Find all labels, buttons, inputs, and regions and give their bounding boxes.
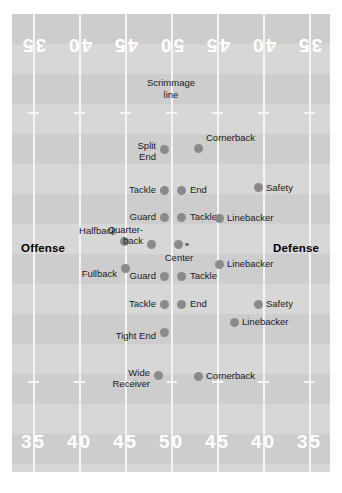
player-dot-defense-linebacker-lower[interactable] bbox=[230, 318, 239, 327]
yard-number-top-1: 40 bbox=[67, 36, 92, 55]
player-label-defense-end-lower: End bbox=[190, 298, 260, 309]
yard-number-bottom-5: 40 bbox=[251, 432, 276, 451]
player-label-line1: Guard bbox=[80, 211, 156, 222]
player-dot-defense-cornerback-top[interactable] bbox=[194, 144, 203, 153]
player-dot-defense-safety-upper[interactable] bbox=[254, 183, 263, 192]
player-label-offense-center: Center bbox=[140, 252, 218, 263]
player-label-line1: Cornerback bbox=[206, 132, 306, 143]
yard-number-top-6: 35 bbox=[297, 36, 322, 55]
player-label-line1: End bbox=[190, 298, 260, 309]
player-dot-defense-tackle-lower[interactable] bbox=[177, 272, 186, 281]
player-label-defense-tackle-lower: Tackle bbox=[190, 270, 260, 281]
player-label-offense-quarterback: Quarter- back bbox=[74, 224, 143, 246]
yard-number-bottom-3: 50 bbox=[159, 432, 184, 451]
player-label-line1: Tackle bbox=[80, 298, 156, 309]
offense-label: Offense bbox=[21, 242, 65, 254]
yard-number-bottom-1: 40 bbox=[67, 432, 92, 451]
player-dot-offense-wide-receiver[interactable] bbox=[154, 371, 163, 380]
player-label-defense-safety-lower: Safety bbox=[266, 298, 326, 309]
player-label-line1: Safety bbox=[266, 182, 326, 193]
player-label-offense-guard-upper: Guard bbox=[80, 211, 156, 222]
player-label-line1: Quarter- bbox=[74, 224, 143, 235]
hash-mark bbox=[120, 112, 131, 114]
player-label-line1: Linebacker bbox=[242, 316, 330, 327]
yard-number-top-3: 50 bbox=[159, 36, 184, 55]
yard-number-bottom-2: 45 bbox=[113, 432, 138, 451]
player-label-offense-split-end: Split End bbox=[80, 140, 156, 162]
hash-mark bbox=[258, 112, 269, 114]
player-label-offense-wide-receiver: Wide Receiver bbox=[70, 367, 150, 389]
yard-number-bottom-4: 45 bbox=[205, 432, 230, 451]
player-label-line1: End bbox=[190, 184, 260, 195]
player-dot-defense-linebacker-middle[interactable] bbox=[215, 260, 224, 269]
player-label-defense-linebacker-middle: Linebacker bbox=[227, 258, 317, 269]
hash-mark bbox=[212, 381, 223, 383]
player-label-line1: Linebacker bbox=[227, 212, 317, 223]
player-label-line2: back bbox=[74, 235, 143, 246]
player-label-offense-tight-end: Tight End bbox=[72, 330, 156, 341]
player-dot-defense-linebacker-upper[interactable] bbox=[215, 214, 224, 223]
player-label-line1: Tackle bbox=[80, 184, 156, 195]
player-label-defense-end-upper: End bbox=[190, 184, 260, 195]
yard-number-top-4: 45 bbox=[205, 36, 230, 55]
football-formation-diagram: 35 40 45 50 45 40 35 35 40 45 50 45 40 3… bbox=[0, 0, 342, 493]
player-label-line1: Tackle bbox=[190, 270, 260, 281]
football-field: 35 40 45 50 45 40 35 35 40 45 50 45 40 3… bbox=[12, 14, 330, 472]
player-label-line1: Wide bbox=[70, 367, 150, 378]
player-label-line1: Safety bbox=[266, 298, 326, 309]
player-label-line2: End bbox=[80, 151, 156, 162]
player-label-offense-tackle-upper: Tackle bbox=[80, 184, 156, 195]
hash-mark bbox=[304, 381, 315, 383]
yard-number-bottom-0: 35 bbox=[21, 432, 46, 451]
yard-number-bottom-6: 35 bbox=[297, 432, 322, 451]
player-label-line2: Receiver bbox=[70, 378, 150, 389]
hash-mark bbox=[304, 112, 315, 114]
hash-mark bbox=[166, 381, 177, 383]
player-label-defense-safety-upper: Safety bbox=[266, 182, 326, 193]
hash-mark bbox=[28, 112, 39, 114]
player-label-line1: Split bbox=[80, 140, 156, 151]
hash-mark bbox=[258, 381, 269, 383]
player-label-line1: Linebacker bbox=[227, 258, 317, 269]
player-dot-offense-center[interactable] bbox=[174, 240, 183, 249]
yard-number-top-5: 40 bbox=[251, 36, 276, 55]
player-dot-defense-end-lower[interactable] bbox=[177, 300, 186, 309]
player-label-defense-linebacker-upper: Linebacker bbox=[227, 212, 317, 223]
player-label-offense-tackle-lower: Tackle bbox=[80, 298, 156, 309]
player-dot-offense-guard-upper[interactable] bbox=[160, 213, 169, 222]
player-label-defense-cornerback-top: Cornerback bbox=[206, 132, 306, 143]
scrimmage-line-text-1: Scrimmage bbox=[121, 77, 221, 89]
player-dot-offense-quarterback[interactable] bbox=[147, 240, 156, 249]
player-dot-defense-end-upper[interactable] bbox=[177, 186, 186, 195]
player-dot-defense-safety-lower[interactable] bbox=[254, 300, 263, 309]
player-dot-offense-tackle-upper[interactable] bbox=[160, 186, 169, 195]
player-label-defense-cornerback-bottom: Cornerback bbox=[206, 370, 306, 381]
player-dot-offense-guard-lower[interactable] bbox=[160, 272, 169, 281]
football-icon bbox=[185, 243, 189, 246]
yard-number-top-0: 35 bbox=[21, 36, 46, 55]
player-dot-offense-split-end[interactable] bbox=[160, 145, 169, 154]
scrimmage-line-text-2: line bbox=[121, 89, 221, 101]
hash-mark bbox=[74, 112, 85, 114]
hash-mark bbox=[28, 381, 39, 383]
scrimmage-line-annotation: Scrimmage line bbox=[121, 77, 221, 100]
player-dot-defense-cornerback-bottom[interactable] bbox=[194, 372, 203, 381]
hash-mark bbox=[166, 112, 177, 114]
yard-line-40-right bbox=[263, 14, 265, 472]
player-label-line1: Guard bbox=[80, 270, 156, 281]
player-label-defense-linebacker-lower: Linebacker bbox=[242, 316, 330, 327]
hash-mark bbox=[212, 112, 223, 114]
player-label-offense-guard-lower: Guard bbox=[80, 270, 156, 281]
player-label-line1: Tight End bbox=[72, 330, 156, 341]
player-dot-defense-tackle-upper[interactable] bbox=[177, 213, 186, 222]
player-label-line1: Cornerback bbox=[206, 370, 306, 381]
player-dot-offense-tight-end[interactable] bbox=[160, 328, 169, 337]
player-label-line1: Center bbox=[140, 252, 218, 263]
yard-number-top-2: 45 bbox=[113, 36, 138, 55]
defense-label: Defense bbox=[273, 242, 319, 254]
player-dot-offense-tackle-lower[interactable] bbox=[160, 300, 169, 309]
